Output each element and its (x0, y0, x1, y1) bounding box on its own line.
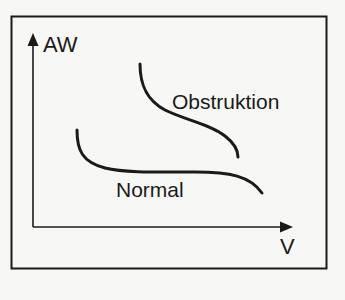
y-axis-label: AW (43, 34, 78, 56)
curve-label-normal: Normal (116, 179, 184, 200)
x-axis-arrow-icon (280, 222, 293, 233)
y-axis-arrow-icon (28, 33, 39, 46)
x-axis-label: V (280, 236, 295, 258)
curve-label-obstruktion: Obstruktion (172, 91, 279, 112)
